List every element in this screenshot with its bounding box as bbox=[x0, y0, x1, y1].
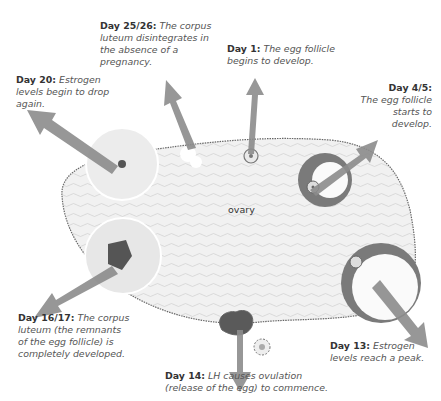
stage-day4: Day 4/5:The egg follicle starts to devel… bbox=[360, 82, 432, 130]
stage-day13: Day 13: Estrogen levels reach a peak. bbox=[330, 340, 430, 364]
stage-day14: Day 14: LH causes ovulation (release of … bbox=[165, 370, 335, 394]
arrow-day16 bbox=[34, 266, 118, 318]
ovarian-cycle-diagram: ovary Day 1: The egg follicle begins to … bbox=[0, 0, 441, 401]
stage-day1: Day 1: The egg follicle begins to develo… bbox=[227, 43, 367, 67]
arrow-day25 bbox=[164, 80, 196, 150]
stage-day16: Day 16/17: The corpus luteum (the remnan… bbox=[18, 312, 130, 360]
stage-day25: Day 25/26: The corpus luteum disintegrat… bbox=[100, 20, 220, 68]
ovary-label: ovary bbox=[228, 204, 255, 215]
stage-day20: Day 20: Estrogen levels begin to drop ag… bbox=[16, 74, 128, 110]
